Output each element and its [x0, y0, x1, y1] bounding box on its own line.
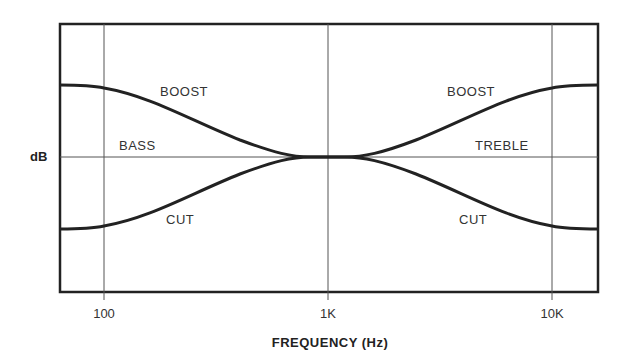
x-axis-title: FREQUENCY (Hz): [272, 335, 389, 350]
x-tick-100: 100: [93, 306, 115, 321]
x-tick-1k: 1K: [320, 306, 336, 321]
cut-bass-label: CUT: [166, 212, 194, 227]
cut-curve: [60, 157, 598, 229]
treble-label: TREBLE: [475, 138, 529, 153]
y-axis-label: dB: [30, 149, 47, 164]
boost-treble-label: BOOST: [447, 84, 495, 99]
bass-label: BASS: [119, 138, 156, 153]
boost-bass-label: BOOST: [160, 84, 208, 99]
cut-treble-label: CUT: [459, 212, 487, 227]
x-tick-10k: 10K: [540, 306, 563, 321]
